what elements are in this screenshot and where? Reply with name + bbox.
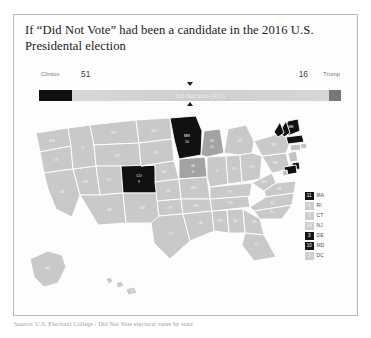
summary-bar: Did Not Vote (471) (39, 90, 341, 101)
svg-text:SD: SD (153, 151, 158, 155)
svg-text:GA: GA (251, 220, 257, 224)
state-ma (286, 135, 304, 144)
bar-value-clinton: 51 (81, 69, 90, 79)
state-wi (201, 129, 224, 157)
legend-label-de: DE (317, 233, 324, 238)
svg-text:OR: OR (53, 158, 59, 162)
svg-text:NY: NY (271, 143, 277, 147)
svg-text:ID: ID (81, 146, 85, 150)
legend-swatch-dc: 3 (305, 252, 314, 260)
state-az (80, 193, 126, 225)
svg-text:MT: MT (111, 131, 117, 135)
svg-text:IN: IN (232, 167, 236, 171)
svg-text:NC: NC (270, 201, 276, 205)
bar-segment-trump (329, 90, 341, 101)
svg-text:TX: TX (169, 232, 174, 236)
marker-down-triangle-icon (187, 82, 193, 86)
legend-swatch-md: 10 (305, 242, 314, 250)
svg-text:KS: KS (166, 189, 171, 193)
svg-text:NV: NV (83, 180, 89, 184)
svg-text:LA: LA (198, 221, 203, 225)
svg-text:AK: AK (46, 266, 51, 270)
svg-text:9: 9 (138, 180, 140, 184)
svg-text:WI: WI (210, 139, 215, 143)
svg-text:AR: AR (193, 204, 198, 208)
legend-label-ct: CT (317, 213, 324, 218)
bar-segment-clinton (39, 90, 72, 101)
bar-label-clinton: Clinton (41, 71, 59, 77)
state-fl (242, 233, 276, 261)
summary-bar-block: Clinton 51 16 Trump Did Not Vote (471) (39, 71, 341, 107)
svg-text:WY: WY (115, 154, 121, 158)
state-hi-1 (106, 277, 113, 284)
state-ia (179, 157, 207, 179)
state-hi-2 (116, 281, 124, 288)
svg-text:10: 10 (210, 145, 214, 149)
svg-text:SC: SC (269, 210, 274, 214)
marker-up-triangle-icon (187, 102, 193, 106)
state-tx (151, 214, 190, 259)
state-dc (282, 170, 288, 176)
svg-text:MN: MN (184, 134, 190, 138)
svg-text:OK: OK (167, 206, 173, 210)
svg-text:IL: IL (215, 169, 218, 173)
legend-swatch-ct: 7 (305, 212, 314, 220)
legend-label-ri: RI (317, 203, 322, 208)
svg-text:TN: TN (228, 201, 233, 205)
state-ct (290, 144, 301, 151)
svg-text:OH: OH (249, 165, 255, 169)
legend-swatch-ri: 4 (305, 202, 314, 210)
svg-text:WA: WA (49, 139, 55, 143)
bar-label-did-not-vote: Did Not Vote (471) (176, 93, 226, 99)
legend-label-nj: NJ (317, 223, 323, 228)
legend-item: 11 MA (305, 191, 349, 200)
svg-text:CA: CA (59, 190, 65, 194)
figure-title: If “Did Not Vote” had been a candidate i… (25, 23, 325, 54)
svg-text:ME: ME (288, 125, 294, 129)
svg-text:FL: FL (255, 242, 259, 246)
state-co (121, 165, 157, 193)
svg-text:NE: NE (161, 170, 167, 174)
legend-swatch-de: 3 (305, 232, 314, 240)
svg-text:WV: WV (261, 180, 267, 184)
svg-text:NM: NM (139, 206, 145, 210)
legend-item: 14 NJ (305, 221, 349, 230)
bar-value-trump: 16 (299, 69, 308, 79)
svg-text:AZ: AZ (108, 208, 113, 212)
legend-label-dc: DC (317, 253, 324, 258)
legend-swatch-nj: 14 (305, 222, 314, 230)
svg-text:HI: HI (130, 289, 134, 293)
legend-item: 4 RI (305, 201, 349, 210)
svg-text:MI: MI (238, 139, 242, 143)
bar-label-trump: Trump (323, 71, 340, 77)
svg-text:KY: KY (228, 190, 233, 194)
svg-text:ND: ND (151, 129, 157, 133)
svg-text:UT: UT (107, 178, 113, 182)
svg-text:VA: VA (277, 187, 282, 191)
legend-label-md: MD (317, 243, 325, 248)
svg-text:MO: MO (191, 186, 197, 190)
state-nj (288, 151, 298, 162)
legend-label-ma: MA (317, 193, 325, 198)
svg-text:MS: MS (217, 219, 223, 223)
figure-panel: If “Did Not Vote” had been a candidate i… (13, 14, 358, 316)
legend-item: 10 MD (305, 241, 349, 250)
svg-text:CO: CO (136, 174, 142, 178)
svg-text:6: 6 (192, 170, 194, 174)
bar-segment-did-not-vote: Did Not Vote (471) (72, 90, 329, 101)
figure-caption: Source: U.S. Electoral College / Did Not… (14, 320, 344, 327)
svg-text:AL: AL (234, 219, 239, 223)
map-legend: 11 MA 4 RI 7 CT 14 NJ 3 DE 10 MD 3 DC (305, 191, 349, 261)
svg-text:IA: IA (191, 164, 195, 168)
legend-swatch-ma: 11 (305, 192, 314, 200)
svg-text:PA: PA (273, 161, 278, 165)
legend-item: 3 DE (305, 231, 349, 240)
legend-item: 3 DC (305, 251, 349, 260)
svg-text:10: 10 (185, 140, 189, 144)
legend-item: 7 CT (305, 211, 349, 220)
